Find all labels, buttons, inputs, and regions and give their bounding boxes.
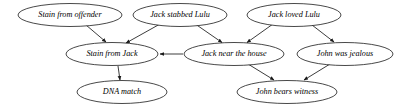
node-label-john_witness: John bears witness	[256, 87, 318, 96]
node-dna_match[interactable]: DNA match	[77, 81, 167, 104]
node-stain_jack[interactable]: Stain from Jack	[66, 43, 158, 66]
edge-jack_loved-to-jack_near	[247, 24, 273, 43]
node-label-jack_loved: Jack loved Lulu	[268, 10, 320, 19]
edge-stain_jack-to-dna_match	[118, 66, 120, 80]
node-stain_offender[interactable]: Stain from offender	[18, 4, 122, 27]
node-john_witness[interactable]: John bears witness	[237, 81, 337, 104]
node-jack_stabbed[interactable]: Jack stabbed Lulu	[133, 4, 227, 27]
edge-jack_stabbed-to-jack_near	[196, 25, 222, 43]
edge-jack_near-to-john_witness	[248, 64, 274, 80]
node-label-john_jealous: John was jealous	[317, 49, 373, 58]
node-label-dna_match: DNA match	[102, 87, 141, 96]
causal-diagram: Stain from offenderJack stabbed LuluJack…	[0, 0, 412, 108]
node-label-stain_jack: Stain from Jack	[86, 49, 137, 58]
node-john_jealous[interactable]: John was jealous	[297, 43, 393, 66]
node-label-jack_near: Jack near the house	[201, 49, 267, 58]
node-label-stain_offender: Stain from offender	[38, 10, 102, 19]
edge-john_jealous-to-john_witness	[304, 64, 330, 80]
node-jack_loved[interactable]: Jack loved Lulu	[247, 4, 341, 27]
nodes-layer: Stain from offenderJack stabbed LuluJack…	[18, 4, 393, 104]
edge-stain_offender-to-stain_jack	[86, 25, 106, 42]
node-jack_near[interactable]: Jack near the house	[184, 43, 284, 66]
edge-jack_stabbed-to-stain_jack	[126, 24, 160, 43]
node-label-jack_stabbed: Jack stabbed Lulu	[150, 10, 210, 19]
edge-jack_loved-to-john_jealous	[312, 25, 334, 42]
graph-canvas: Stain from offenderJack stabbed LuluJack…	[0, 0, 412, 108]
